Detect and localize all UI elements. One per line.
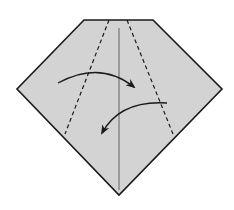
origami-diagram — [0, 0, 234, 210]
paper-shape — [17, 20, 222, 195]
